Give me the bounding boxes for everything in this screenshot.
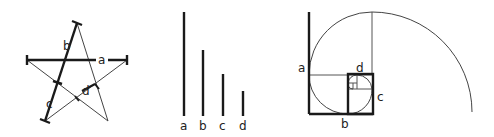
pentagram-label-d: d — [82, 84, 90, 98]
spiral-label-d: d — [356, 61, 364, 75]
pentagram-label-c: c — [46, 97, 53, 111]
pentagram-label-a: a — [98, 53, 105, 67]
spiral-label-a: a — [298, 61, 305, 75]
golden-ratio-diagram: a b c d a b c d — [0, 0, 494, 137]
bar-label-b: b — [199, 119, 207, 133]
pentagram-star — [27, 23, 127, 121]
bar-label-a: a — [180, 119, 187, 133]
bar-label-c: c — [219, 119, 226, 133]
pentagram-panel: a b c d — [27, 21, 127, 123]
golden-spiral-curve — [309, 12, 472, 114]
spiral-square-cd — [348, 74, 373, 114]
segment-a — [27, 55, 127, 65]
bars-panel: a b c d — [180, 12, 247, 133]
golden-spiral-panel: a b c d — [298, 12, 472, 131]
pentagram-label-b: b — [63, 39, 71, 53]
spiral-label-c: c — [377, 90, 384, 104]
bar-label-d: d — [239, 119, 247, 133]
bars — [184, 12, 243, 116]
spiral-label-b: b — [341, 117, 349, 131]
